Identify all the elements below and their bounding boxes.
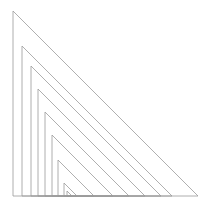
nested-triangles-figure [0, 0, 216, 207]
figure-background [0, 0, 216, 207]
